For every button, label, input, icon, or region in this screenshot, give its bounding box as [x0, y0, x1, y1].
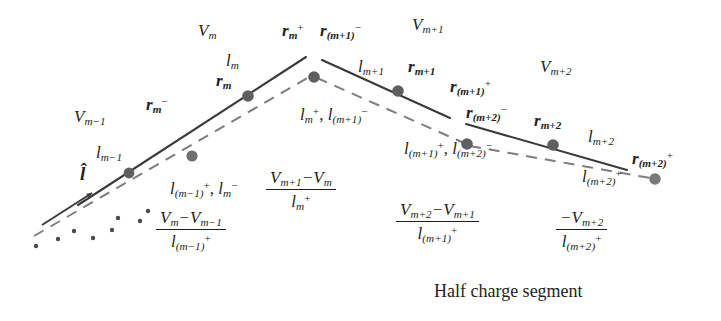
- half-segment-label-end: l(m+2)+: [582, 168, 622, 187]
- wire-segmentation-figure: Vm−1 Vm Vm+1 Vm+2 lm−1 lm lm+1 lm+2 l(m−…: [0, 0, 721, 321]
- potential-label-v-m: Vm: [198, 22, 217, 41]
- length-label-l-m: lm: [226, 52, 239, 71]
- fraction-charge-density-m: Vm+1−Vm lm+: [266, 168, 336, 212]
- fraction-charge-density-m-minus-1: Vm−Vm−1 l(m−1)+: [156, 208, 226, 252]
- node-r-m-plus-1: [392, 85, 404, 97]
- potential-label-v-m-minus-1: Vm−1: [74, 108, 106, 127]
- length-label-l-m-plus-1: lm+1: [358, 58, 384, 77]
- fraction-charge-density-m-plus-2: −Vm+2 l(m+2)+: [556, 208, 607, 252]
- fraction-charge-density-m-plus-1: Vm+2−Vm+1 l(m+1)+: [396, 200, 479, 244]
- ellipsis-dots: [34, 209, 150, 248]
- unit-vector-arrow: [42, 193, 92, 225]
- node-r-m-minus-1: [124, 168, 135, 179]
- node-half-end: [649, 173, 661, 185]
- node-r-m-plus-2: [547, 139, 559, 151]
- length-label-l-m-minus-1: lm−1: [96, 144, 122, 163]
- node-half-apex-left: [308, 71, 320, 83]
- half-segment-label-left: l(m−1)+, lm−: [170, 180, 238, 199]
- position-label-r-m-plus-1-plus: r(m+1)+: [450, 78, 491, 97]
- position-label-r-m-plus-1-minus: r(m+1)−: [320, 22, 361, 41]
- unit-vector-label: l̂: [80, 164, 85, 183]
- position-label-r-m-plus-1: rm+1: [408, 58, 435, 77]
- half-segment-label-middle: lm+, l(m+1)−: [300, 106, 368, 125]
- position-label-r-m-plus-2-minus: r(m+2)−: [466, 104, 507, 123]
- node-r-m: [242, 90, 254, 102]
- potential-label-v-m-plus-2: Vm+2: [540, 58, 572, 77]
- half-segment-label-right: l(m+1)+, l(m+2)−: [404, 140, 492, 159]
- position-label-r-m-minus: rm−: [146, 96, 168, 115]
- node-half-left: [186, 150, 197, 161]
- position-label-r-m: rm: [216, 72, 231, 91]
- length-label-l-m-plus-2: lm+2: [588, 128, 614, 147]
- potential-label-v-m-plus-1: Vm+1: [412, 16, 444, 35]
- position-label-r-m-plus-2-plus: r(m+2)+: [632, 150, 673, 169]
- position-label-r-m-plus-2: rm+2: [534, 112, 561, 131]
- position-label-r-m-plus: rm+: [282, 22, 304, 41]
- figure-caption: Half charge segment: [434, 281, 583, 302]
